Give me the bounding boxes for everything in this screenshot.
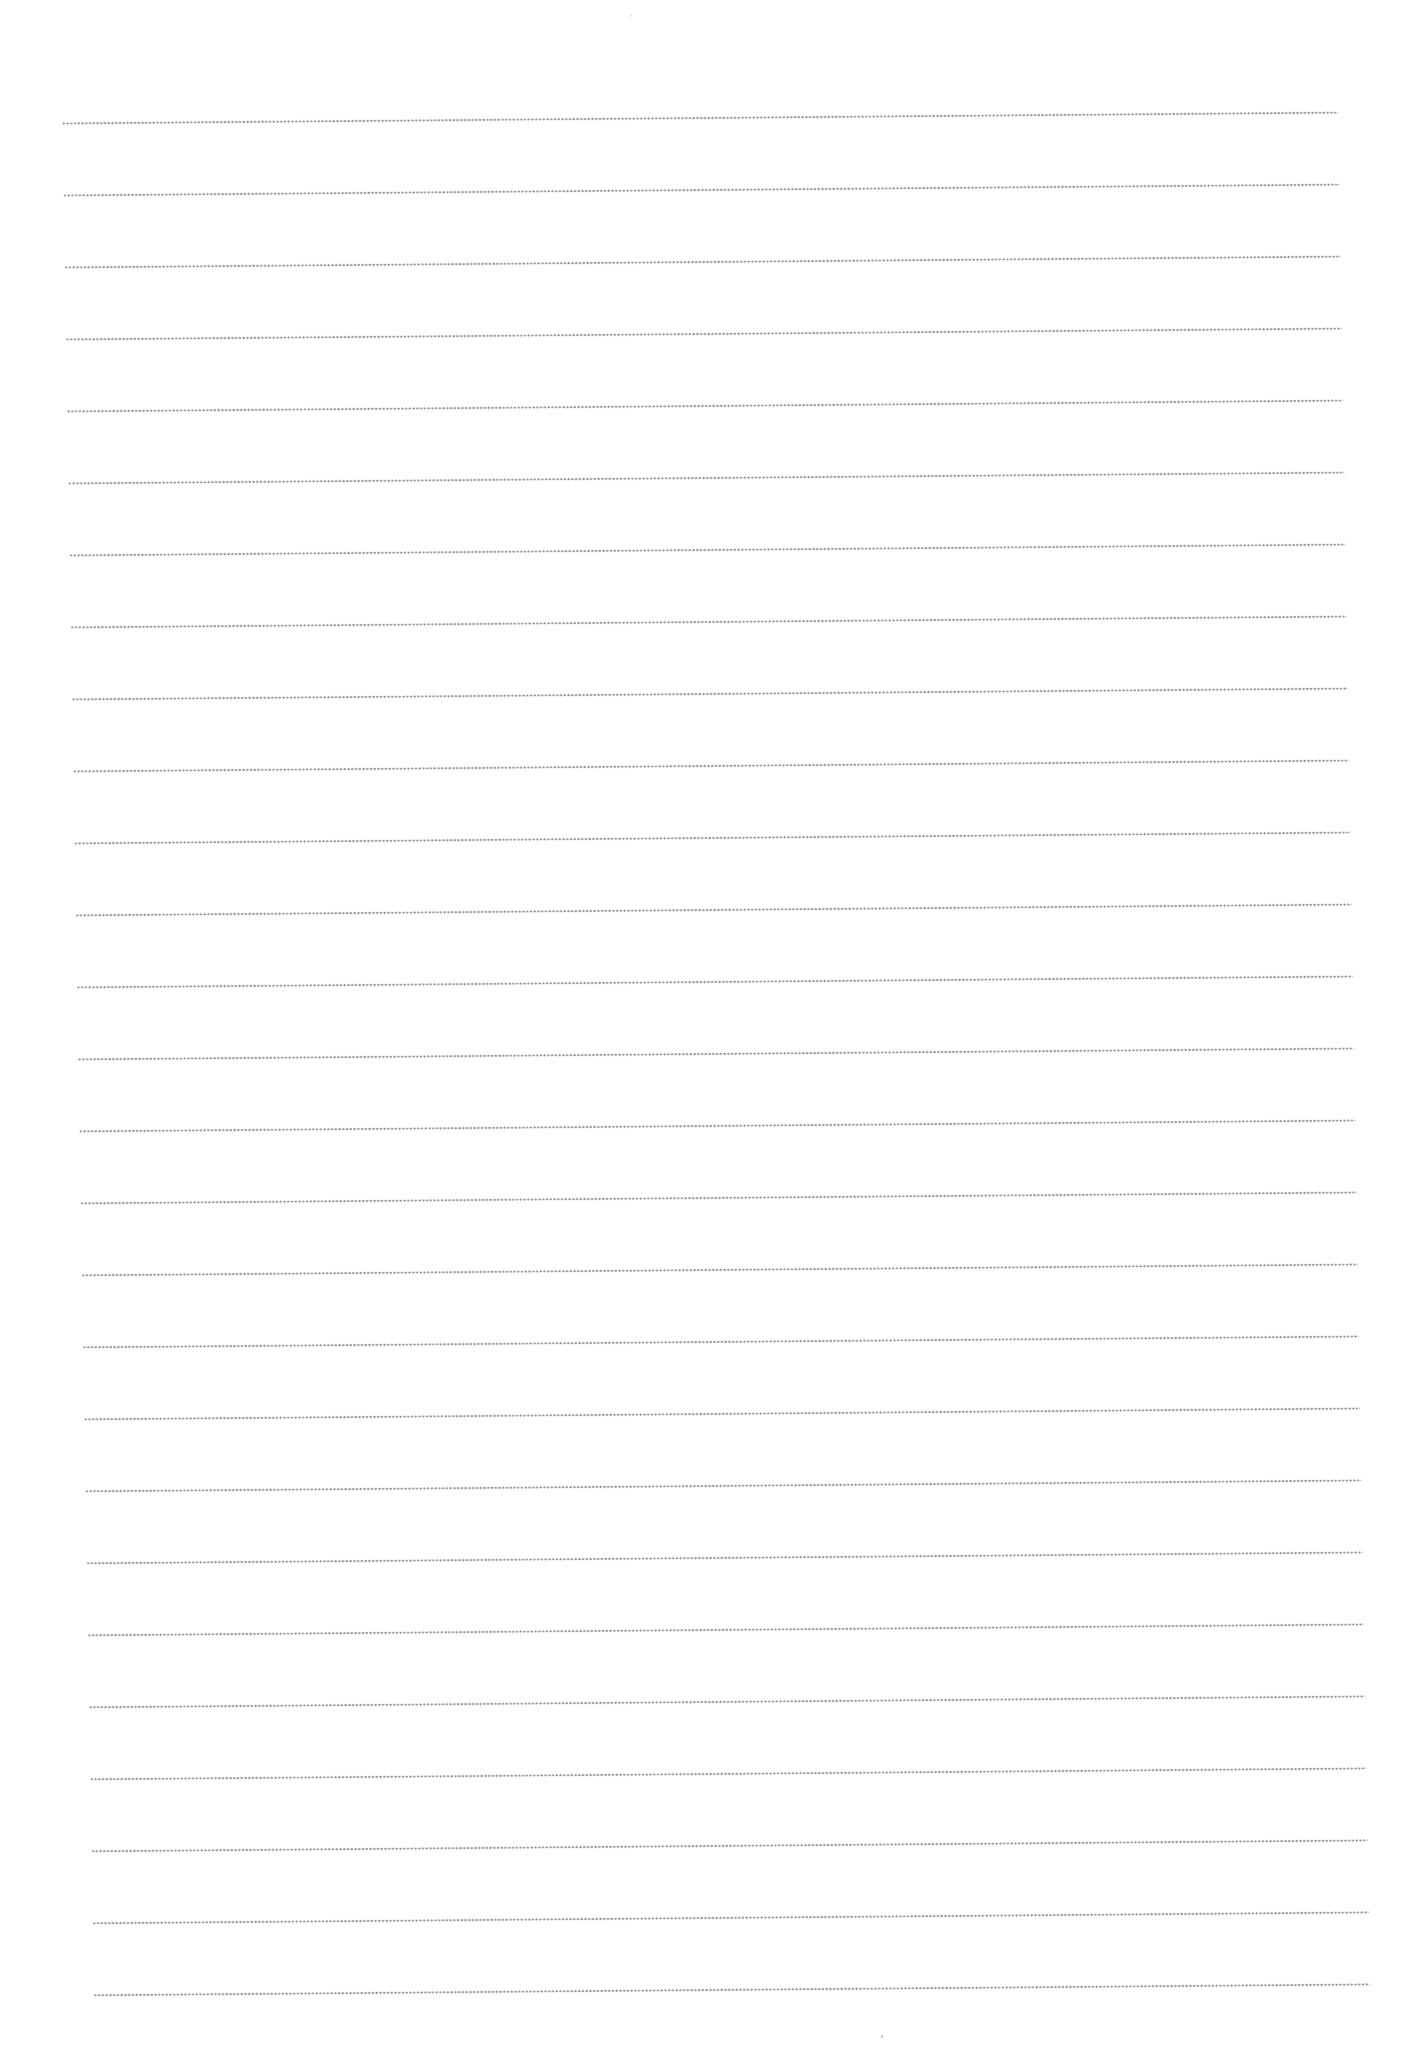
dotted-rule-line	[88, 1623, 1364, 1637]
dotted-rule-line	[71, 615, 1347, 629]
dotted-rule-line	[94, 1983, 1370, 1997]
ruled-lines-area	[62, 101, 1370, 2012]
ruled-paper-sheet	[0, 0, 1414, 2046]
dotted-rule-line	[91, 1839, 1367, 1853]
dotted-rule-line	[69, 543, 1345, 557]
dotted-rule-line	[74, 831, 1350, 845]
dotted-rule-line	[79, 1119, 1355, 1133]
dotted-rule-line	[85, 1479, 1361, 1493]
dotted-rule-line	[63, 183, 1339, 197]
dotted-rule-line	[83, 1335, 1359, 1349]
dotted-rule-line	[93, 1911, 1369, 1925]
dotted-rule-line	[90, 1767, 1366, 1781]
dotted-rule-line	[78, 1047, 1354, 1061]
dotted-rule-line	[72, 687, 1348, 701]
dotted-rule-line	[82, 1263, 1358, 1277]
paper-speck	[630, 14, 632, 17]
dotted-rule-line	[77, 975, 1353, 989]
paper-speck	[881, 2035, 883, 2038]
dotted-rule-line	[65, 255, 1341, 269]
dotted-rule-line	[66, 327, 1342, 341]
dotted-rule-line	[73, 759, 1349, 773]
dotted-rule-line	[87, 1551, 1363, 1565]
dotted-rule-line	[68, 471, 1344, 485]
dotted-rule-line	[76, 903, 1352, 917]
dotted-rule-line	[67, 399, 1343, 413]
dotted-rule-line	[84, 1407, 1360, 1421]
dotted-rule-line	[62, 111, 1338, 125]
dotted-rule-line	[89, 1695, 1365, 1709]
dotted-rule-line	[80, 1191, 1356, 1205]
